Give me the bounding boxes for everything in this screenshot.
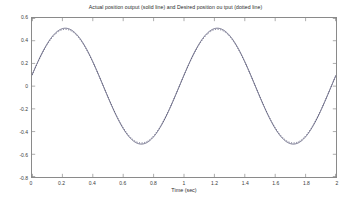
y-tick-label: -0.8 <box>19 176 28 181</box>
x-tick-label: 0.8 <box>150 180 157 186</box>
figure-canvas: Actual position output (solid line) and … <box>0 0 351 199</box>
chart-title: Actual position output (solid line) and … <box>0 4 351 11</box>
x-tick-label: 0.4 <box>89 180 96 186</box>
y-tick-label: -0.6 <box>19 153 28 158</box>
x-tick-label: 1.2 <box>211 180 218 186</box>
x-tick-label: 1.6 <box>272 180 279 186</box>
x-tick-label: 0.6 <box>119 180 126 186</box>
y-axis-tick-labels: 0.60.40.20-0.2-0.4-0.6-0.8 <box>0 17 28 178</box>
x-tick-label: 0.2 <box>58 180 65 186</box>
x-tick-label: 2 <box>336 180 339 186</box>
y-tick-label: 0.2 <box>21 61 28 66</box>
plot-area <box>31 17 337 178</box>
y-tick-label: 0.4 <box>21 38 28 43</box>
x-axis-label: Time (sec) <box>31 187 337 194</box>
y-tick-label: -0.2 <box>19 107 28 112</box>
y-tick-label: 0.6 <box>21 15 28 20</box>
y-tick-label: -0.4 <box>19 130 28 135</box>
x-tick-label: 1.4 <box>242 180 249 186</box>
x-tick-label: 1.8 <box>303 180 310 186</box>
y-tick-label: 0 <box>25 84 28 89</box>
x-tick-label: 0 <box>30 180 33 186</box>
plot-svg <box>32 18 336 177</box>
data-series-line <box>32 28 336 144</box>
x-tick-label: 1 <box>183 180 186 186</box>
data-series-group <box>32 28 336 144</box>
data-series-line <box>32 29 336 143</box>
axis-ticks <box>32 18 336 177</box>
